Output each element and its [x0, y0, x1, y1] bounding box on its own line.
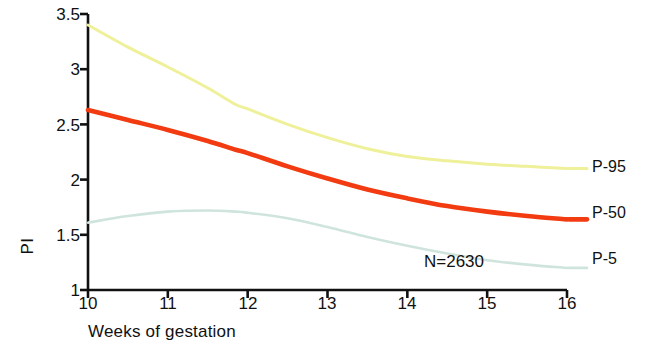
chart-figure: PI Weeks of gestation 3.5 3 2.5 2 1.5 1 …: [0, 0, 657, 356]
series-line-p-95: [88, 25, 567, 169]
series-label-p50: P-50: [592, 204, 626, 222]
x-tick-label-12: 12: [228, 294, 268, 314]
x-tick-label-11: 11: [148, 294, 188, 314]
x-tick-label-15: 15: [467, 294, 507, 314]
series-label-p5: P-5: [592, 250, 617, 268]
x-tick-label-10: 10: [68, 294, 108, 314]
x-tick-label-13: 13: [307, 294, 347, 314]
x-axis-title: Weeks of gestation: [88, 322, 236, 342]
y-tick-label-2: 2: [34, 171, 80, 191]
x-tick-label-16: 16: [547, 294, 587, 314]
y-tick-label-3-5: 3.5: [34, 5, 80, 25]
y-axis-title: PI: [18, 216, 38, 276]
series-label-p95: P-95: [592, 158, 626, 176]
sample-size-annotation: N=2630: [424, 252, 484, 272]
x-tick-label-14: 14: [387, 294, 427, 314]
series-line-p-5: [88, 211, 567, 268]
y-tick-label-2-5: 2.5: [34, 116, 80, 136]
y-tick-label-1-5: 1.5: [34, 226, 80, 246]
y-tick-label-3: 3: [34, 60, 80, 80]
